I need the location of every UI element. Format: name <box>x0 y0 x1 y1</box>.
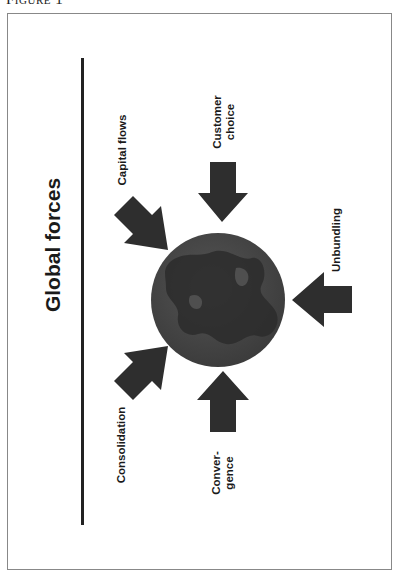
label-customer-choice-line1: Customer <box>211 95 224 149</box>
arrow-customer-choice-icon <box>198 162 248 222</box>
label-unbundling-text: Unbundling <box>330 208 342 272</box>
arrow-capital-flows-icon <box>114 196 168 250</box>
label-convergence-line1: Conver- <box>210 451 223 494</box>
label-convergence: Conver- gence <box>210 451 236 494</box>
label-capital-flows-text: Capital flows <box>116 115 128 186</box>
arrow-convergence-icon <box>197 371 249 432</box>
globe-icon <box>151 233 285 367</box>
label-unbundling: Unbundling <box>330 208 343 272</box>
label-convergence-line2: gence <box>223 451 236 494</box>
label-customer-choice: Customer choice <box>211 95 237 149</box>
label-capital-flows: Capital flows <box>116 115 129 186</box>
arrow-consolidation-icon <box>114 346 168 400</box>
label-consolidation-text: Consolidation <box>115 407 127 484</box>
label-consolidation: Consolidation <box>115 407 128 484</box>
arrow-unbundling-icon <box>292 272 352 327</box>
diagram-graphics <box>0 0 400 582</box>
label-customer-choice-line2: choice <box>224 95 237 149</box>
